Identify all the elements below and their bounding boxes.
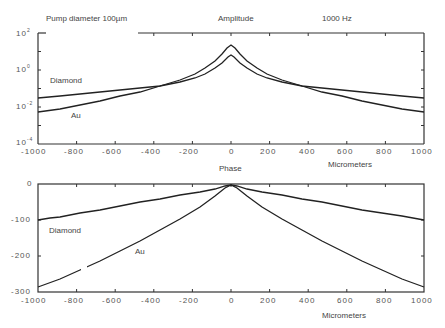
phase-x-tick: 1000 [411,296,433,305]
amplitude-y-tick: 100 [16,63,31,74]
phase-y-tick: 0 [27,179,32,188]
phase-x-tick: -400 [141,296,161,305]
amplitude-y-tick: 10-2 [16,100,33,111]
phase-title: Phase [219,164,242,173]
amplitude-x-tick: 600 [337,147,353,156]
phase-x-tick: -600 [102,296,122,305]
phase-curve-gap [81,264,87,272]
frequency-annotation: 1000 Hz [322,14,352,23]
phase-y-tick: -300 [11,287,31,296]
amplitude-legend-au: Au [71,111,81,120]
amplitude-x-tick: 400 [299,147,315,156]
amplitude-y-tick: 102 [16,27,31,38]
phase-plot-frame [38,184,424,292]
amplitude-x-tick: -200 [179,147,199,156]
phase-x-tick: 400 [299,296,315,305]
phase-legend-diamond: Diamond [49,226,81,235]
amplitude-curve-diamond [38,55,424,98]
phase-x-tick: 800 [376,296,392,305]
amplitude-plot-frame [38,33,424,144]
amplitude-title: Amplitude [218,14,254,23]
amplitude-x-tick: -800 [64,147,84,156]
phase-plot-ticks [38,184,424,292]
amplitude-x-tick: 0 [229,147,234,156]
phase-y-tick: -200 [11,251,31,260]
pump-diameter-annotation: Pump diameter 100µm [46,14,127,23]
phase-curve-diamond [38,185,424,220]
phase-x-tick: -200 [179,296,199,305]
amplitude-x-tick: 200 [260,147,276,156]
amplitude-y-tick: 10-4 [16,136,33,147]
amplitude-plot-ticks [38,33,424,144]
amplitude-x-tick: 1000 [411,147,433,156]
phase-x-tick: 600 [337,296,353,305]
amplitude-x-tick: 800 [376,147,392,156]
phase-x-tick: -1000 [21,296,46,305]
phase-x-tick: 200 [260,296,276,305]
amplitude-legend-diamond: Diamond [50,76,82,85]
phase-curve-au [38,185,424,287]
phase-y-tick: -100 [11,215,31,224]
phase-x-axis-label: Micrometers [322,311,366,320]
phase-x-tick: 0 [229,296,234,305]
phase-legend-au: Au [135,247,145,256]
phase-x-tick: -800 [64,296,84,305]
amplitude-x-tick: -400 [141,147,161,156]
amplitude-x-tick: -600 [102,147,122,156]
amplitude-x-tick: -1000 [21,147,46,156]
amplitude-x-axis-label: Micrometers [328,160,372,169]
